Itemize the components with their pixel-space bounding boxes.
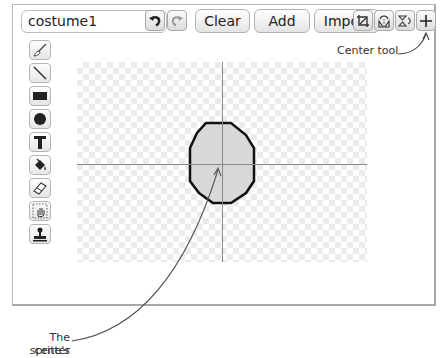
sprite-center-annotation-line2: center bbox=[14, 344, 70, 357]
center-tool-annotation: Center tool bbox=[337, 44, 398, 57]
center-tool-arrow bbox=[398, 34, 426, 54]
sprite-center-arrow bbox=[72, 170, 218, 341]
